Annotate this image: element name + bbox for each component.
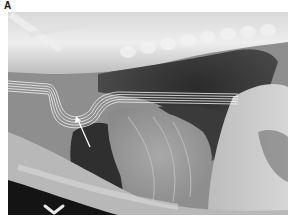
panel-label: A — [4, 0, 11, 12]
radiograph-image — [8, 12, 288, 215]
